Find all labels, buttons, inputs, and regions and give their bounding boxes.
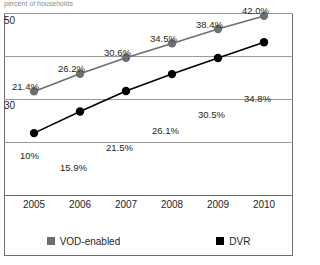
legend-swatch-vod-icon bbox=[47, 237, 55, 245]
x-axis-label-2010: 2010 bbox=[241, 199, 287, 211]
legend-label-vod: VOD-enabled bbox=[60, 236, 121, 247]
x-axis-label-2007: 2007 bbox=[103, 199, 149, 211]
dvr-datalabel-2009: 30.5% bbox=[198, 109, 225, 120]
vod-datalabel-2006: 26.2% bbox=[58, 63, 85, 74]
x-axis-label-2009: 2009 bbox=[195, 199, 241, 211]
vod-datalabel-2007: 30.6% bbox=[104, 47, 131, 58]
vod-datalabel-2010: 42.0% bbox=[242, 5, 269, 16]
vod-datalabel-2008: 34.5% bbox=[150, 33, 177, 44]
chart-legend: VOD-enabled DVR bbox=[4, 232, 293, 250]
x-axis-label-2008: 2008 bbox=[149, 199, 195, 211]
x-axis-label-2006: 2006 bbox=[57, 199, 103, 211]
dvr-datalabel-2010: 34.8% bbox=[244, 93, 271, 104]
dvr-datalabel-2005: 10% bbox=[20, 150, 39, 161]
legend-item-dvr: DVR bbox=[216, 236, 250, 247]
legend-item-vod: VOD-enabled bbox=[47, 236, 121, 247]
series-lines bbox=[4, 13, 293, 196]
vod-datalabel-2005: 21.4% bbox=[12, 81, 39, 92]
x-axis-label-2005: 2005 bbox=[11, 199, 57, 211]
vod-datalabel-2009: 38.4% bbox=[196, 19, 223, 30]
legend-swatch-dvr-icon bbox=[216, 237, 224, 245]
dvr-line bbox=[34, 42, 264, 133]
clipped-title-text: percent of households bbox=[4, 0, 184, 8]
dvr-datalabel-2008: 26.1% bbox=[152, 125, 179, 136]
dvr-datalabel-2006: 15.9% bbox=[60, 162, 87, 173]
legend-label-dvr: DVR bbox=[229, 236, 250, 247]
dvr-datalabel-2007: 21.5% bbox=[106, 142, 133, 153]
